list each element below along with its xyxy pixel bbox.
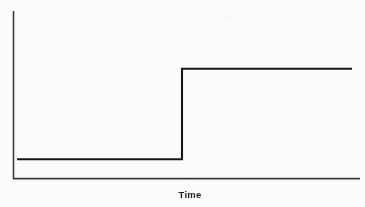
- chart-figure: Time: [0, 0, 365, 207]
- step-data-line: [17, 69, 352, 159]
- x-axis-title: Time: [179, 189, 202, 200]
- step-function-plot: [0, 0, 365, 207]
